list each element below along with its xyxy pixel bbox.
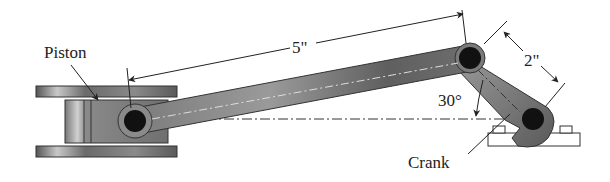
crank-angle-label: 30° (438, 91, 462, 110)
rod-length-label: 5" (292, 38, 307, 57)
crankshaft-pin (522, 108, 544, 130)
bottom-guide (36, 146, 177, 157)
wrist-pin (124, 110, 146, 132)
crank-pin (459, 47, 481, 69)
crank-label: Crank (408, 153, 450, 172)
slider-crank-diagram: 5" 2" 30° Piston Crank (0, 0, 610, 182)
top-guide (36, 86, 177, 97)
crank-length-label: 2" (524, 51, 539, 70)
piston-label: Piston (44, 43, 87, 62)
